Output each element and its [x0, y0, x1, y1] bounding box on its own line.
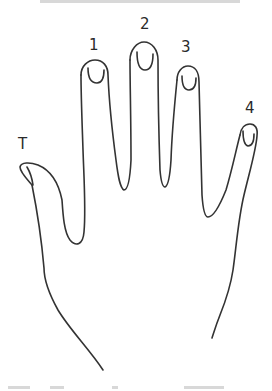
label-finger-2: 2 [140, 17, 150, 32]
label-finger-4: 4 [245, 101, 255, 116]
finger-1-outline [81, 60, 131, 190]
finger-2-outline [130, 42, 177, 187]
finger-3-nail [182, 76, 196, 90]
label-thumb: T [18, 137, 27, 152]
hand-left-edge [32, 185, 103, 370]
label-finger-1: 1 [89, 38, 99, 53]
cutoff-text-bottom-2 [50, 386, 64, 389]
thumb-outline [20, 75, 85, 244]
hand-diagram: T 1 2 3 4 [0, 0, 272, 391]
cutoff-text-bottom-1 [8, 386, 30, 389]
finger-4-nail [243, 131, 254, 146]
finger-2-nail [137, 52, 153, 70]
cutoff-text-bottom-3 [112, 386, 118, 389]
finger-1-nail [88, 68, 104, 83]
cutoff-text-bottom-4 [184, 386, 224, 389]
label-finger-3: 3 [181, 40, 191, 55]
hand-outline [0, 0, 272, 391]
cutoff-text-top [40, 0, 240, 3]
